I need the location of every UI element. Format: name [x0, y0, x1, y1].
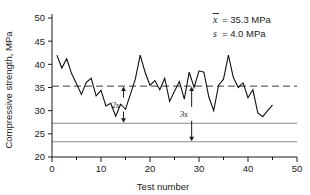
annotation-three-sigma: 3s: [179, 87, 194, 142]
sd-symbol: s: [213, 28, 217, 39]
annotation-label: 3s: [179, 109, 189, 119]
sigma-annotations: 2s3s: [112, 87, 195, 142]
arrow-head-up: [189, 87, 194, 92]
x-tick-labels: 01020304050: [49, 163, 302, 174]
annotation-label: 2s: [112, 100, 121, 110]
y-tick-label: 30: [34, 105, 45, 116]
x-tick-label: 30: [194, 163, 205, 174]
x-tick-label: 40: [243, 163, 254, 174]
mean-symbol: x: [212, 14, 218, 25]
annotation-two-sigma: 2s: [112, 87, 126, 123]
y-tick-labels: 20253035404550: [34, 12, 45, 162]
y-tick-label: 25: [34, 128, 45, 139]
arrow-head-up: [121, 87, 126, 92]
x-axis-title: Test number: [137, 181, 189, 192]
arrow-head-down: [121, 118, 126, 123]
sd-value-text: = 4.0 MPa: [222, 28, 266, 39]
stats-annotation-block: x = 35.3 MPa s = 4.0 MPa: [212, 14, 272, 40]
mean-value-text: = 35.3 MPa: [222, 14, 272, 25]
y-tick-label: 40: [34, 59, 45, 70]
y-axis-title: Compressive strength, MPa: [3, 31, 14, 149]
y-tick-label: 50: [34, 12, 45, 23]
x-tick-label: 50: [292, 163, 303, 174]
x-tick-label: 20: [145, 163, 156, 174]
y-tick-label: 35: [34, 82, 45, 93]
control-limit-lines: [52, 123, 297, 142]
chart-svg: 01020304050 20253035404550 2s3s Test num…: [0, 0, 310, 195]
chart-figure: 01020304050 20253035404550 2s3s Test num…: [0, 0, 310, 195]
axis-ticks: [48, 18, 297, 162]
y-tick-label: 20: [34, 151, 45, 162]
x-tick-label: 10: [96, 163, 107, 174]
y-tick-label: 45: [34, 36, 45, 47]
arrow-head-down: [189, 137, 194, 142]
x-tick-label: 0: [49, 163, 54, 174]
